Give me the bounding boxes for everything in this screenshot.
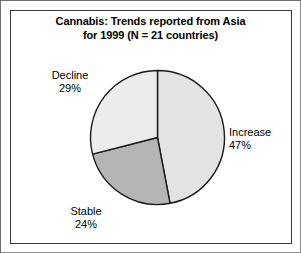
chart-title-line-2: for 1999 (N = 21 countries) [1, 28, 300, 42]
chart-figure: Cannabis: Trends reported from Asia for … [0, 0, 301, 253]
chart-title-line-1: Cannabis: Trends reported from Asia [1, 14, 300, 28]
pie-label-decline: Decline 29% [37, 69, 103, 95]
pie-label-stable: Stable 24% [57, 205, 115, 231]
pie-label-decline-value: 29% [37, 82, 103, 95]
pie-label-increase-value: 47% [229, 139, 293, 152]
pie-label-increase-name: Increase [229, 126, 293, 139]
pie-label-stable-name: Stable [57, 205, 115, 218]
chart-title: Cannabis: Trends reported from Asia for … [1, 14, 300, 42]
pie-label-stable-value: 24% [57, 218, 115, 231]
pie-label-increase: Increase 47% [229, 126, 293, 152]
pie-label-decline-name: Decline [37, 69, 103, 82]
